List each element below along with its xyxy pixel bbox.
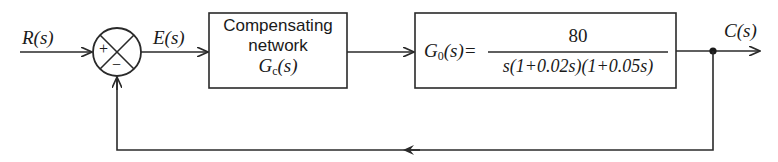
compensator-label: Compensating network Gc(s) — [209, 16, 347, 81]
plant-lhs: G0(s)= — [424, 40, 477, 64]
compensator-line2: network — [209, 36, 347, 56]
input-signal-label: R(s) — [22, 27, 54, 49]
error-signal-label: E(s) — [153, 27, 185, 49]
plant-denominator: s(1+0.02s)(1+0.05s) — [488, 56, 668, 77]
compensator-line1: Compensating — [209, 16, 347, 36]
output-signal-label: C(s) — [724, 20, 757, 42]
compensator-symbol: Gc(s) — [209, 56, 347, 81]
plus-sign: + — [99, 40, 108, 58]
minus-sign: − — [112, 56, 121, 74]
plant-numerator: 80 — [488, 25, 668, 47]
